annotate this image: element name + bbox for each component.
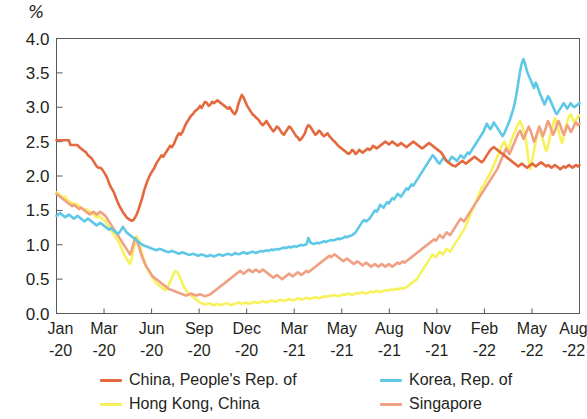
x-axis-tick-label-month: Sep xyxy=(185,320,214,337)
y-axis-tick-label: 2.5 xyxy=(26,133,50,152)
chart-legend: China, People's Rep. of Hong Kong, China… xyxy=(0,368,587,419)
x-axis-tick-label-month: Mar xyxy=(90,320,118,337)
y-axis-tick-label: 1.5 xyxy=(26,201,50,220)
x-axis-tick-label-year: -20 xyxy=(188,342,211,359)
x-axis-tick-label-year: -21 xyxy=(378,342,401,359)
legend-item-korea[interactable]: Korea, Rep. of xyxy=(380,368,512,392)
legend-swatch-singapore xyxy=(380,403,402,406)
x-axis-tick-label-month: Jan xyxy=(48,320,74,337)
x-axis-ticks-group xyxy=(57,309,580,314)
plot-frame xyxy=(57,39,580,314)
x-axis-tick-label-year: -21 xyxy=(425,342,448,359)
y-axis-tick-label: 3.0 xyxy=(26,98,50,117)
y-axis-ticks-group: 0.00.51.01.52.02.53.03.54.0 xyxy=(26,30,63,324)
x-axis-tick-label-year: -20 xyxy=(235,342,258,359)
legend-label-hong-kong: Hong Kong, China xyxy=(129,395,260,413)
x-axis-tick-label-year: -20 xyxy=(140,342,163,359)
y-axis-tick-label: 2.0 xyxy=(26,167,50,186)
x-axis-tick-label-year: -20 xyxy=(92,342,115,359)
legend-item-hong-kong[interactable]: Hong Kong, China xyxy=(100,392,260,416)
legend-label-singapore: Singapore xyxy=(409,395,482,413)
x-axis-tick-label-year: -22 xyxy=(520,342,543,359)
x-axis-tick-label-month: Nov xyxy=(423,320,451,337)
y-axis-tick-label: 0.0 xyxy=(26,305,50,324)
x-axis-tick-label-month: Aug xyxy=(375,320,403,337)
x-axis-tick-label-month: Dec xyxy=(232,320,260,337)
y-axis-tick-label: 0.5 xyxy=(26,270,50,289)
x-axis-tick-label-year: -21 xyxy=(330,342,353,359)
legend-swatch-korea xyxy=(380,379,402,382)
y-axis-tick-label: 3.5 xyxy=(26,64,50,83)
x-axis-tick-label-month: Aug xyxy=(559,320,587,337)
legend-item-china[interactable]: China, People's Rep. of xyxy=(100,368,297,392)
legend-swatch-china xyxy=(100,379,122,382)
series-line xyxy=(57,114,580,305)
x-axis-tick-label-month: May xyxy=(327,320,357,337)
chart-container: % 0.00.51.01.52.02.53.03.54.0 Jan-20Mar-… xyxy=(0,0,587,419)
x-axis-tick-label-year: -21 xyxy=(283,342,306,359)
legend-swatch-hong-kong xyxy=(100,403,122,406)
x-axis-tick-label-year: -22 xyxy=(562,342,585,359)
x-axis-tick-label-month: Mar xyxy=(280,320,308,337)
legend-item-singapore[interactable]: Singapore xyxy=(380,392,482,416)
y-axis-tick-label: 1.0 xyxy=(26,236,50,255)
x-axis-tick-label-month: Jun xyxy=(139,320,165,337)
legend-label-china: China, People's Rep. of xyxy=(129,371,297,389)
y-axis-tick-label: 4.0 xyxy=(26,30,50,49)
series-lines-group xyxy=(57,59,580,305)
x-axis-tick-label-year: -22 xyxy=(473,342,496,359)
x-axis-tick-label-year: -20 xyxy=(49,342,72,359)
x-axis-tick-label-month: Feb xyxy=(471,320,499,337)
x-axis-tick-labels-group: Jan-20Mar-20Jun-20Sep-20Dec-20Mar-21May-… xyxy=(48,320,587,359)
x-axis-tick-label-month: May xyxy=(517,320,547,337)
legend-label-korea: Korea, Rep. of xyxy=(409,371,512,389)
line-chart-plot: 0.00.51.01.52.02.53.03.54.0 Jan-20Mar-20… xyxy=(0,0,587,372)
